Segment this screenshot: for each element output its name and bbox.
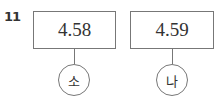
connector-line-2 xyxy=(172,49,173,64)
connector-line-1 xyxy=(74,49,75,64)
question-number: 11 xyxy=(4,9,20,24)
value-box-2: 4.59 xyxy=(130,11,214,49)
label-circle-1: 소 xyxy=(58,64,90,96)
label-circle-2: 나 xyxy=(156,64,188,96)
value-box-1: 4.58 xyxy=(33,11,116,49)
